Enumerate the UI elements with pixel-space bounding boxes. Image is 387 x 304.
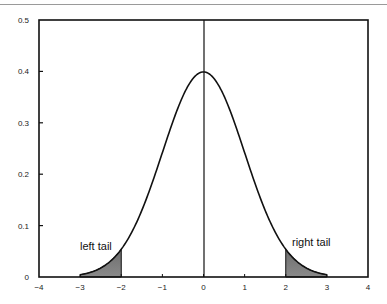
x-tick-label: 3: [325, 283, 330, 292]
x-tick-label: 4: [366, 283, 371, 292]
left-tail-label: left tail: [80, 240, 112, 252]
x-tick-label: 1: [242, 283, 247, 292]
y-tick-label: 0.4: [18, 67, 30, 76]
y-tick-label: 0.5: [18, 16, 30, 25]
x-tick-label: −2: [117, 283, 127, 292]
x-tick-label: −3: [76, 283, 86, 292]
x-tick-label: −1: [158, 283, 168, 292]
x-tick-label: −4: [34, 283, 44, 292]
y-tick-label: 0.1: [18, 222, 30, 231]
y-tick-label: 0.3: [18, 119, 30, 128]
right-tail-label: right tail: [292, 236, 331, 248]
x-tick-label: 2: [284, 283, 289, 292]
x-tick-label: 0: [201, 283, 206, 292]
y-tick-label: 0.2: [18, 170, 30, 179]
y-tick-label: 0: [25, 273, 30, 282]
normal-distribution-chart: 00.10.20.30.40.5 −4−3−2−101234 left tail…: [0, 0, 387, 304]
